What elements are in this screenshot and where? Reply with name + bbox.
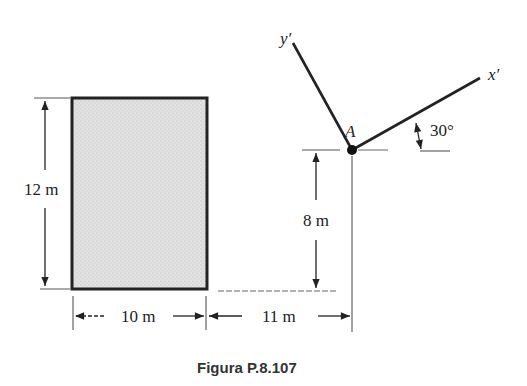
angle-arrow — [416, 123, 421, 149]
vertical-offset-label: 8 m — [303, 211, 329, 230]
figure-caption: Figura P.8.107 — [197, 359, 297, 376]
y-prime-axis — [293, 43, 352, 150]
y-prime-label: y′ — [278, 29, 292, 48]
x-prime-label: x′ — [487, 65, 500, 84]
point-a-label: A — [344, 122, 356, 141]
angle-label: 30° — [430, 121, 454, 140]
shaded-rectangle — [72, 98, 207, 289]
offset-label: 11 m — [262, 307, 296, 326]
height-label: 12 m — [24, 180, 58, 199]
diagram-canvas: 12 m 10 m 11 m 8 m y′ x′ A 30° Figura P.… — [0, 0, 527, 386]
x-prime-axis — [352, 78, 480, 150]
width-label: 10 m — [121, 307, 155, 326]
point-a — [347, 145, 357, 155]
